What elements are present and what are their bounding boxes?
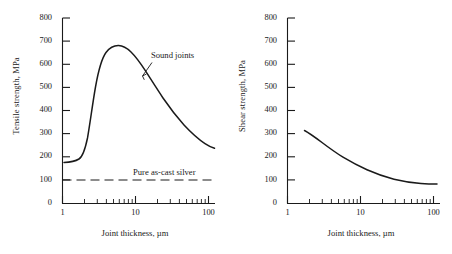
y-axis-ticks (63, 18, 71, 180)
y-tick-label: 0 (24, 199, 52, 207)
y-tick-label: 300 (24, 129, 52, 137)
y-tick-label: 700 (24, 37, 52, 45)
y-tick-label: 100 (24, 176, 52, 184)
y-tick-label: 800 (24, 14, 52, 22)
y-tick-label: 200 (24, 152, 52, 160)
y-axis-ticks (288, 18, 296, 180)
y-tick-label: 800 (249, 14, 277, 22)
x-tick-label: 10 (125, 209, 146, 217)
y-tick-label: 100 (249, 176, 277, 184)
chart-panel-tensile: Tensile strength, MPa (0, 0, 226, 254)
x-axis-minor-ticks (310, 199, 431, 204)
x-axis-minor-ticks (85, 199, 206, 204)
y-tick-label: 600 (24, 60, 52, 68)
y-tick-label: 700 (249, 37, 277, 45)
axis-lines (288, 18, 441, 204)
series-sound-joints (64, 46, 215, 163)
chart-panel-shear: Shear strength, MPa (226, 0, 452, 254)
y-tick-label: 600 (249, 60, 277, 68)
pure-silver-label: Pure as-cast silver (133, 167, 196, 177)
x-tick-label: 10 (350, 209, 371, 217)
y-tick-label: 400 (249, 106, 277, 114)
x-tick-label: 100 (422, 209, 445, 217)
y-tick-label: 200 (249, 152, 277, 160)
y-tick-label: 300 (249, 129, 277, 137)
y-tick-label: 500 (24, 83, 52, 91)
figure: Tensile strength, MPa (0, 0, 452, 254)
y-tick-label: 0 (249, 199, 277, 207)
x-tick-label: 100 (197, 209, 220, 217)
series-shear-strength (305, 131, 438, 184)
x-tick-label: 1 (52, 209, 73, 217)
y-tick-label: 500 (249, 83, 277, 91)
x-axis-title: Joint thickness, µm (50, 228, 220, 238)
x-tick-label: 1 (277, 209, 298, 217)
y-tick-label: 400 (24, 106, 52, 114)
sound-joints-label: Sound joints (151, 50, 194, 60)
x-axis-title: Joint thickness, µm (276, 228, 446, 238)
